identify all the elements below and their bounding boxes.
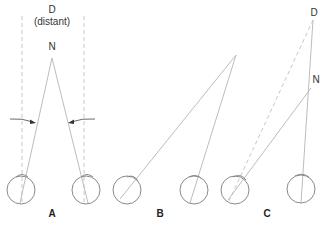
label-near-n: N	[48, 41, 55, 52]
sightline-left-b	[120, 55, 236, 199]
sightline-right-b	[190, 55, 236, 203]
near-sightline-left	[20, 58, 52, 203]
convergence-arrow-right-icon	[68, 119, 95, 124]
panel-b: B	[113, 55, 236, 219]
near-sightline-c	[228, 88, 311, 200]
vergence-diagram: D (distant) N A	[0, 0, 327, 225]
label-distant-d-c: D	[310, 7, 317, 18]
label-near-n-c: N	[312, 74, 319, 85]
eye-right-icon	[72, 175, 100, 205]
panel-a: D (distant) N A	[7, 4, 100, 219]
near-sightline-right	[52, 58, 88, 203]
panel-label-b: B	[156, 208, 163, 219]
label-distant-d: D	[48, 4, 55, 15]
label-distant-sub: (distant)	[34, 16, 70, 27]
panel-label-c: C	[263, 208, 270, 219]
convergence-arrow-left-icon	[10, 119, 36, 124]
panel-label-a: A	[48, 208, 55, 219]
panel-c: D N C	[221, 7, 320, 219]
